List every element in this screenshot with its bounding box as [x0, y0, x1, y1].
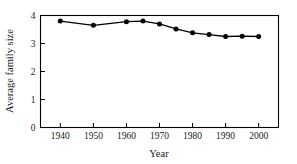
- data-point: [140, 19, 145, 24]
- data-point: [58, 19, 63, 24]
- x-tick-label: 1940: [51, 131, 70, 141]
- x-tick-label: 1970: [150, 131, 169, 141]
- plot-frame: [41, 16, 279, 128]
- chart-figure: 01234 1940195019601970198019902000 Year …: [0, 0, 297, 164]
- x-tick-label: 1980: [183, 131, 202, 141]
- y-tick-label: 4: [31, 11, 36, 21]
- y-axis-tick-labels: 01234: [31, 11, 36, 133]
- x-tick-label: 1990: [216, 131, 235, 141]
- y-axis-title: Average family size: [4, 29, 15, 113]
- data-point: [91, 23, 96, 28]
- data-point: [174, 26, 179, 31]
- data-point: [190, 30, 195, 35]
- data-point: [124, 19, 129, 24]
- y-tick-label: 3: [31, 39, 36, 49]
- line-chart: 01234 1940195019601970198019902000 Year …: [0, 0, 297, 164]
- x-axis-ticks: [60, 123, 258, 128]
- data-point: [207, 32, 212, 37]
- x-tick-label: 1960: [117, 131, 136, 141]
- x-axis-tick-labels: 1940195019601970198019902000: [51, 131, 269, 141]
- data-point: [223, 34, 228, 39]
- data-point: [157, 21, 162, 26]
- x-tick-label: 2000: [249, 131, 268, 141]
- data-point: [256, 34, 261, 39]
- x-tick-label: 1950: [84, 131, 103, 141]
- y-tick-label: 0: [31, 123, 36, 133]
- y-tick-label: 1: [31, 95, 36, 105]
- data-point: [240, 34, 245, 39]
- x-axis-title: Year: [149, 148, 169, 159]
- y-tick-label: 2: [31, 67, 36, 77]
- y-axis-ticks: [41, 16, 46, 128]
